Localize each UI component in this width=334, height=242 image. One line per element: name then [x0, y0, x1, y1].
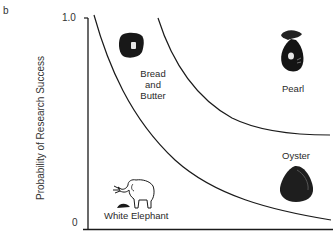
label-bread-and-butter: Bread and Butter: [131, 68, 175, 101]
oyster-icon: [280, 166, 313, 202]
label-line-butter: Butter: [131, 90, 175, 101]
plot-area: [0, 0, 334, 242]
label-oyster: Oyster: [282, 150, 310, 161]
label-line-bread: Bread: [131, 68, 175, 79]
outer-boundary-curve: [158, 18, 330, 135]
bread-icon: [119, 33, 144, 58]
elephant-icon: [113, 180, 154, 208]
label-pearl: Pearl: [282, 83, 304, 94]
portfolio-matrix-figure: b Probability of Research Success 1.0 0: [0, 0, 334, 242]
label-line-and: and: [131, 79, 175, 90]
pearl-icon: [281, 30, 303, 71]
label-white-elephant: White Elephant: [104, 210, 168, 221]
